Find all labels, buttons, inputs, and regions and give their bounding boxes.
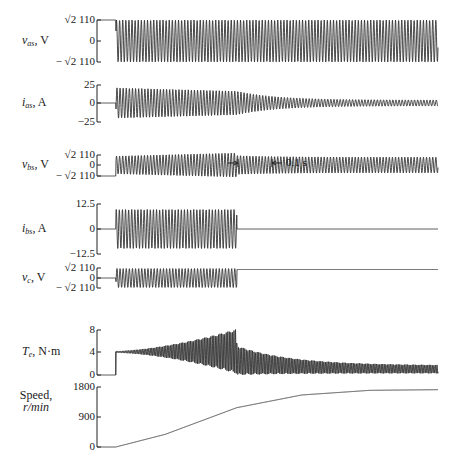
trace-te — [97, 330, 438, 375]
y-axis-label: vc, V — [22, 270, 46, 285]
tick-label: 4 — [90, 345, 96, 357]
tick-label: √2 110 — [65, 13, 96, 25]
y-axis — [97, 85, 101, 122]
panel-vc: √2 1100− √2 110vc, V — [22, 261, 438, 293]
trace-vc — [97, 269, 438, 288]
tick-label: 8 — [90, 323, 96, 335]
time-scale-label: 0.1 s — [286, 156, 307, 168]
tick-label: −25 — [78, 115, 96, 127]
chart: √2 1100− √2 110vas, V250−25ias, A√2 1100… — [0, 0, 449, 452]
y-axis-label: ibs, A — [22, 221, 47, 236]
y-axis-label: vas, V — [22, 33, 49, 48]
y-axis-label: ias, A — [22, 95, 47, 110]
y-axis-label-line2: r/min — [23, 400, 49, 414]
panel-vbs: √2 1100− √2 110vbs, V — [22, 148, 438, 181]
y-axis — [97, 387, 101, 447]
panel-ias: 250−25ias, A — [22, 78, 438, 127]
tick-label: 12.5 — [76, 197, 96, 209]
trace-vas — [97, 20, 438, 62]
tick-label: −12.5 — [70, 247, 96, 259]
trace-ias — [97, 88, 438, 118]
y-axis — [97, 20, 101, 62]
y-axis — [97, 155, 101, 176]
tick-label: 0 — [90, 440, 96, 452]
panel-speed: 18009000Speed,r/min — [20, 380, 438, 452]
tick-label: 0 — [90, 34, 96, 46]
tick-label: 0 — [90, 96, 96, 108]
tick-label: − √2 110 — [56, 169, 96, 181]
tick-label: − √2 110 — [56, 281, 96, 293]
tick-label: 25 — [84, 78, 96, 90]
y-axis — [97, 330, 101, 375]
trace-vbs — [97, 153, 438, 177]
trace-speed — [97, 390, 438, 447]
y-axis-label: vbs, V — [22, 157, 49, 172]
tick-label: − √2 110 — [56, 55, 96, 67]
tick-label: 1800 — [73, 380, 96, 392]
tick-label: 0 — [90, 368, 96, 380]
panel-ibs: 12.50−12.5ibs, A — [22, 197, 438, 259]
y-axis-label: Te, N·m — [22, 344, 61, 359]
tick-label: 0 — [90, 222, 96, 234]
panel-te: 840Te, N·m — [22, 323, 438, 380]
panel-vas: √2 1100− √2 110vas, V — [22, 13, 438, 67]
trace-ibs — [97, 210, 438, 249]
tick-label: 900 — [79, 410, 96, 422]
